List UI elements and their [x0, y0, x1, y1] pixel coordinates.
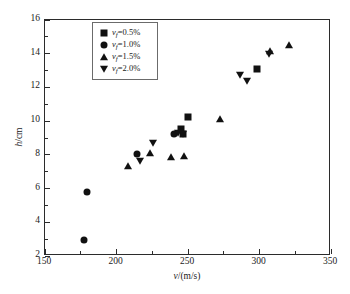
y-axis-tick	[45, 188, 50, 189]
y-axis-title-symbol: h	[14, 142, 24, 147]
x-axis-tick	[116, 249, 117, 254]
y-axis-tick	[45, 87, 50, 88]
legend-marker-triangle-down-icon	[98, 63, 110, 75]
x-axis-tick-label: 350	[323, 257, 337, 267]
data-point-square	[185, 113, 192, 120]
y-axis-tick-label: 2	[26, 250, 40, 260]
x-axis-minor-tick	[223, 251, 224, 254]
y-axis-tick-label: 8	[26, 149, 40, 159]
y-axis-minor-tick	[45, 171, 48, 172]
x-axis-tick	[188, 249, 189, 254]
x-axis-tick	[45, 249, 46, 254]
y-axis-minor-tick	[45, 70, 48, 71]
legend-marker-circle-icon	[98, 39, 110, 51]
y-axis-tick	[45, 20, 50, 21]
data-point-triangle-down	[149, 140, 157, 147]
legend-label: vf=1.0%	[112, 40, 140, 51]
data-point-circle	[133, 150, 140, 157]
legend-marker-triangle-up-icon	[98, 51, 110, 63]
y-axis-tick-label: 4	[26, 217, 40, 227]
y-axis-tick-label: 12	[26, 82, 40, 92]
data-point-triangle-up	[146, 149, 154, 156]
y-axis-minor-tick	[45, 138, 48, 139]
y-axis-minor-tick	[45, 36, 48, 37]
x-axis-title-unit: /(m/s)	[178, 271, 201, 281]
y-axis-tick	[45, 222, 50, 223]
y-axis-minor-tick	[45, 205, 48, 206]
data-point-triangle-up	[124, 162, 132, 169]
x-axis-tick-label: 300	[251, 257, 265, 267]
x-axis-minor-tick	[80, 251, 81, 254]
legend-swatch	[101, 30, 108, 37]
data-point-triangle-up	[216, 115, 224, 122]
y-axis-tick-label: 6	[26, 183, 40, 193]
y-axis-tick	[45, 53, 50, 54]
legend-label: vf=1.5%	[112, 52, 140, 63]
scatter-chart-figure: v/(m/s) h/cm vf=0.5%vf=1.0%vf=1.5%vf=2.0…	[0, 0, 350, 294]
legend-item: vf=1.0%	[98, 39, 152, 51]
y-axis-title: h/cm	[15, 128, 25, 147]
data-point-triangle-up	[167, 153, 175, 160]
data-point-triangle-down	[136, 157, 144, 164]
y-axis-tick-label: 16	[26, 14, 40, 24]
y-axis-tick-label: 10	[26, 115, 40, 125]
data-point-triangle-down	[243, 78, 251, 85]
y-axis-tick	[45, 154, 50, 155]
y-axis-minor-tick	[45, 239, 48, 240]
legend-marker-square-icon	[98, 27, 110, 39]
x-axis-title: v/(m/s)	[174, 272, 201, 282]
data-point-triangle-down	[265, 51, 273, 58]
legend-swatch	[100, 66, 108, 73]
legend-label: vf=2.0%	[112, 64, 140, 75]
legend-swatch	[100, 53, 108, 60]
x-axis-tick	[259, 249, 260, 254]
x-axis-tick-label: 250	[180, 257, 194, 267]
y-axis-tick-label: 14	[26, 48, 40, 58]
legend-item: vf=2.0%	[98, 63, 152, 75]
data-point-triangle-up	[285, 41, 293, 48]
plot-area	[44, 19, 330, 255]
data-point-triangle-up	[180, 152, 188, 159]
data-point-square	[254, 65, 261, 72]
legend-label: vf=0.5%	[112, 28, 140, 39]
data-point-triangle-down	[179, 130, 187, 137]
y-axis-minor-tick	[45, 104, 48, 105]
x-axis-minor-tick	[152, 251, 153, 254]
x-axis-tick	[331, 249, 332, 254]
legend-swatch	[101, 42, 108, 49]
y-axis-tick	[45, 121, 50, 122]
x-axis-minor-tick	[295, 251, 296, 254]
y-axis-title-unit: /cm	[14, 128, 24, 142]
legend-item: vf=1.5%	[98, 51, 152, 63]
legend: vf=0.5%vf=1.0%vf=1.5%vf=2.0%	[92, 22, 158, 80]
data-point-circle	[83, 188, 90, 195]
legend-item: vf=0.5%	[98, 27, 152, 39]
x-axis-tick-label: 200	[108, 257, 122, 267]
data-point-circle	[81, 236, 88, 243]
